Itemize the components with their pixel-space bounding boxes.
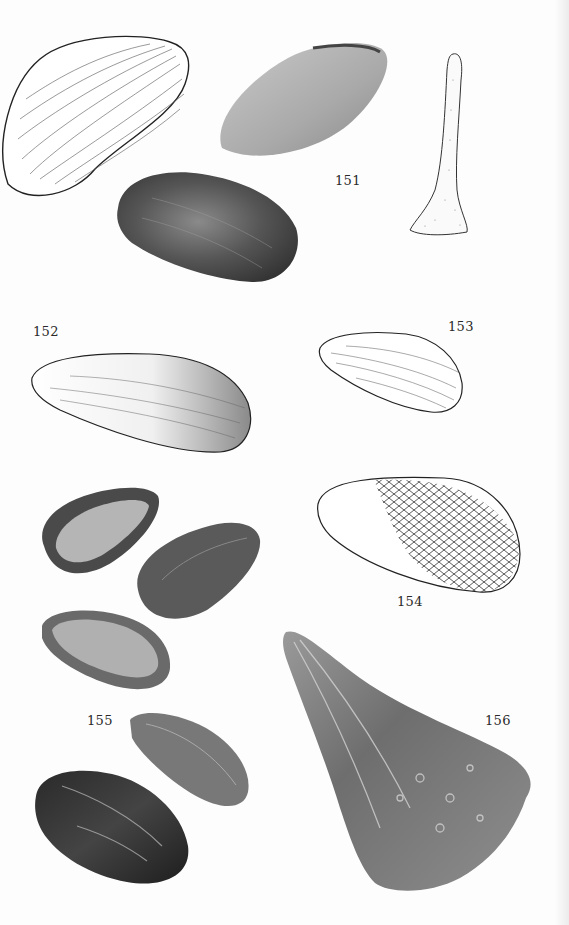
figure-label-155: 155 (87, 713, 113, 728)
figure-151-pale-shell-photo (218, 40, 390, 162)
figure-label-154: 154 (397, 594, 423, 609)
figure-156-pen-shell-photo (280, 628, 536, 894)
figure-151-dark-shell-photo (112, 168, 302, 286)
page-edge-shadow (555, 0, 569, 925)
figure-label-151: 151 (335, 173, 361, 188)
figure-152-stippled-shell (30, 348, 258, 454)
plate-page: 151 152 (0, 0, 569, 925)
figure-label-156: 156 (485, 713, 511, 728)
figure-label-152: 152 (33, 324, 59, 339)
figure-151-stippled-shell (405, 50, 475, 240)
figure-154-scaly-shell (314, 474, 524, 596)
figure-155-shell-photo-3 (38, 606, 172, 694)
figure-153-line-drawing (316, 328, 466, 414)
figure-155-shell-photo-5 (32, 766, 190, 888)
